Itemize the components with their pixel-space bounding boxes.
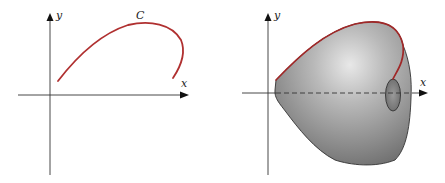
right-y-label: y bbox=[273, 9, 281, 22]
left-y-arrow-icon bbox=[47, 13, 54, 21]
left-panel: y x C bbox=[18, 9, 189, 175]
left-x-arrow-icon bbox=[180, 92, 189, 99]
left-y-label: y bbox=[55, 9, 63, 22]
left-x-label: x bbox=[181, 77, 188, 90]
figure-canvas: y x C y x bbox=[0, 0, 445, 183]
curve-c-label: C bbox=[136, 9, 145, 22]
right-x-label: x bbox=[420, 76, 427, 89]
right-panel: y x bbox=[242, 9, 428, 175]
curve-c bbox=[58, 23, 183, 81]
right-x-arrow-icon bbox=[419, 90, 428, 97]
surface-end-opening bbox=[386, 79, 401, 111]
right-y-arrow-icon bbox=[265, 13, 272, 21]
